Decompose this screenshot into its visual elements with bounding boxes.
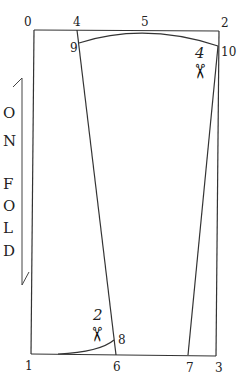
scissors-number: 4	[194, 44, 205, 62]
right-edge	[216, 31, 219, 356]
point-label-9: 9	[70, 41, 78, 55]
point-label-10: 10	[221, 45, 236, 59]
scissors-icon: ✂	[188, 63, 212, 80]
scissors-number: 2	[92, 306, 103, 324]
fold-letter: O	[3, 197, 15, 215]
fold-letter: L	[3, 219, 13, 237]
point-label-1: 1	[25, 359, 33, 373]
top-edge	[34, 30, 219, 31]
point-label-3: 3	[215, 361, 223, 375]
fold-letter: N	[3, 132, 16, 150]
fold-letter: O	[3, 104, 15, 122]
fold-letter: D	[3, 242, 15, 260]
scissors-mark-1: 4 ✂	[188, 44, 212, 80]
point-label-2: 2	[221, 16, 229, 30]
point-label-7: 7	[186, 361, 194, 375]
point-label-8: 8	[118, 333, 126, 347]
right-side-seam	[188, 46, 218, 355]
fold-bracket	[13, 78, 29, 285]
scissors-mark-2: 2 ✂	[85, 306, 109, 343]
point-label-0: 0	[24, 15, 32, 29]
pattern-diagram: O N F O L D 0 4 5 2 9 10 1 6 7 3 8 4 ✂ 2…	[0, 0, 245, 381]
point-label-4: 4	[73, 15, 81, 29]
fold-letter: F	[3, 175, 13, 193]
fold-label: O N F O L D	[3, 104, 16, 260]
point-label-6: 6	[113, 360, 121, 374]
point-label-5: 5	[141, 15, 149, 29]
left-edge	[31, 30, 34, 354]
scissors-icon: ✂	[85, 326, 109, 343]
